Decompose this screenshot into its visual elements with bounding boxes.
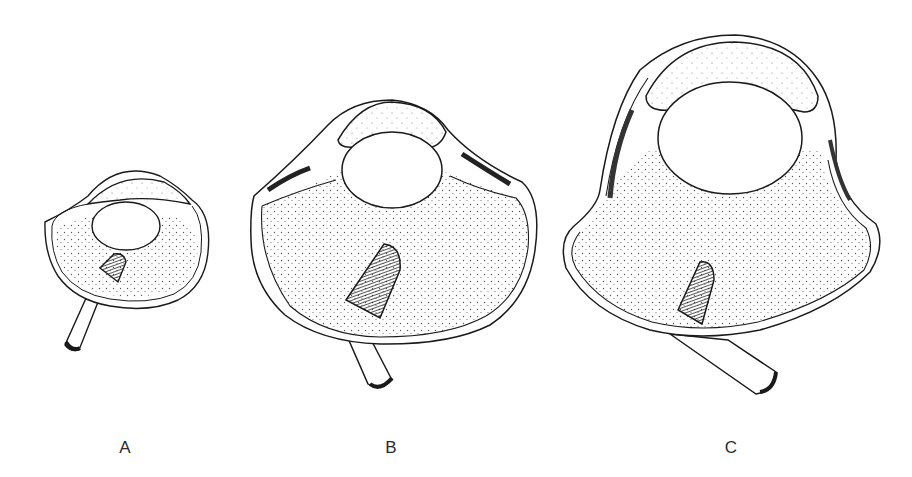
panel-label-a: A xyxy=(119,438,130,458)
optic-nerve-a xyxy=(65,296,98,350)
lens-a xyxy=(92,202,160,250)
lens-c xyxy=(658,82,802,194)
eye-a xyxy=(45,171,209,350)
panel-label-c: C xyxy=(725,438,737,458)
eye-comparison-figure: A B C xyxy=(0,0,912,477)
panel-label-b: B xyxy=(385,438,396,458)
eye-b xyxy=(251,100,537,387)
optic-nerve-c xyxy=(670,334,776,394)
eye-c xyxy=(563,35,880,394)
lens-b xyxy=(342,132,442,208)
